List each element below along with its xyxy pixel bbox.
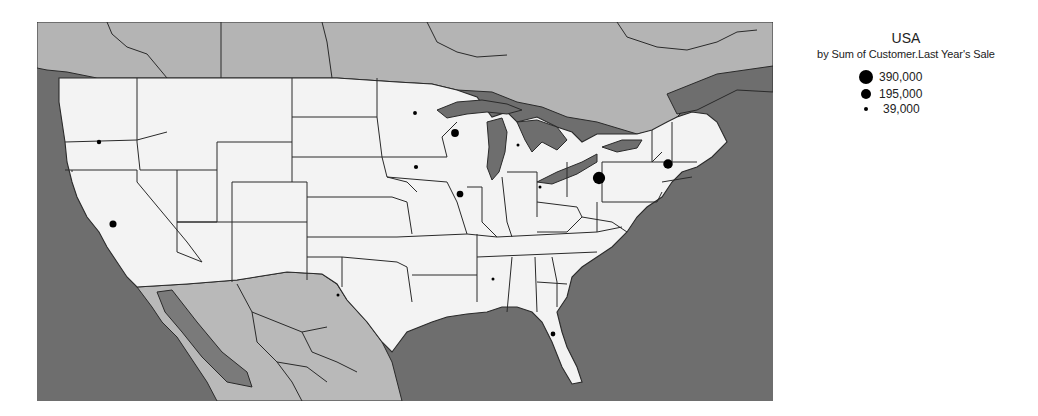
data-point-michigan[interactable] [517, 144, 520, 147]
legend-dot-medium-icon [861, 89, 871, 99]
data-point-minnesota[interactable] [413, 111, 417, 115]
legend-item-medium: 195,000 [858, 86, 922, 102]
data-point-illinois[interactable] [457, 191, 464, 198]
data-point-wisconsin[interactable] [451, 129, 459, 137]
legend-items: 390,000 195,000 39,000 [786, 69, 1026, 129]
data-point-ohio[interactable] [539, 186, 542, 189]
legend-subtitle: by Sum of Customer.Last Year's Sale [786, 47, 1026, 61]
data-point-california[interactable] [109, 220, 116, 227]
data-point-alabama[interactable] [492, 278, 495, 281]
data-point-florida[interactable] [551, 332, 556, 337]
data-point-oregon[interactable] [97, 140, 101, 144]
data-point-massachusetts[interactable] [663, 159, 673, 169]
legend-item-small: 39,000 [858, 101, 920, 117]
legend-label-large: 390,000 [879, 70, 922, 84]
legend-label-small: 39,000 [883, 102, 920, 116]
map-panel[interactable] [37, 22, 773, 401]
data-point-pennsylvania[interactable] [593, 172, 605, 184]
usa-map[interactable] [37, 22, 773, 401]
data-point-texas[interactable] [337, 294, 340, 297]
legend-item-large: 390,000 [858, 69, 922, 85]
legend-dot-small-icon [864, 107, 868, 111]
data-point-iowa[interactable] [414, 165, 418, 169]
map-legend: USA by Sum of Customer.Last Year's Sale … [786, 30, 1026, 129]
legend-label-medium: 195,000 [879, 87, 922, 101]
legend-dot-large-icon [859, 70, 873, 84]
legend-title: USA [786, 30, 1026, 46]
